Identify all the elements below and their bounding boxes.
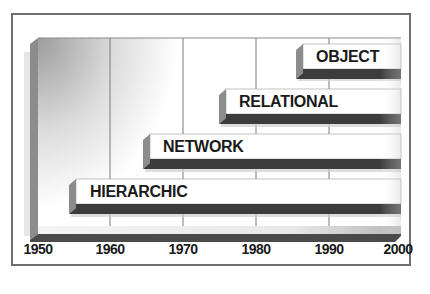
bar-label-relational: RELATIONAL xyxy=(239,93,338,111)
bar-label-hierarchic: HIERARCHIC xyxy=(90,183,187,201)
bar-label-object: OBJECT xyxy=(316,48,379,66)
chart-left-wall xyxy=(24,38,38,240)
x-tick-1950: 1950 xyxy=(23,241,52,257)
x-tick-1990: 1990 xyxy=(314,241,343,257)
x-tick-1960: 1960 xyxy=(95,241,124,257)
chart-floor xyxy=(30,226,401,242)
x-tick-1970: 1970 xyxy=(168,241,197,257)
right-edge-fade xyxy=(380,38,401,234)
x-tick-1980: 1980 xyxy=(241,241,270,257)
bar-label-network: NETWORK xyxy=(163,138,244,156)
x-tick-2000: 2000 xyxy=(383,241,412,257)
